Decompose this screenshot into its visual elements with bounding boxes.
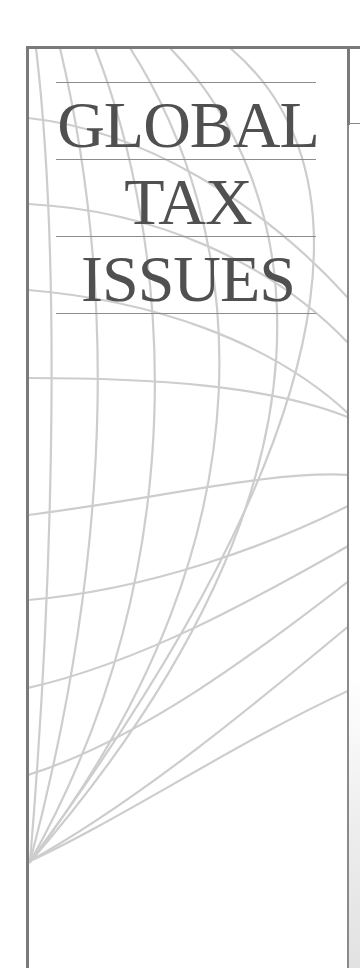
frame-tab-stub <box>349 123 360 124</box>
title-line-tax: TAX <box>29 169 347 235</box>
book-cover: GLOBAL TAX ISSUES <box>0 0 360 968</box>
title-line-global: GLOBAL <box>29 92 347 158</box>
title-rule-1 <box>56 82 316 83</box>
frame-border-right-tab <box>347 46 350 125</box>
frame-border-top <box>26 46 360 49</box>
page-edge-strip <box>349 125 360 968</box>
title-line-issues: ISSUES <box>29 246 347 312</box>
frame-border-right <box>347 46 349 968</box>
